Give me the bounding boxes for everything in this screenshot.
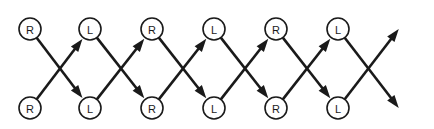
- node-bottom-3-r-label: R: [148, 103, 156, 115]
- node-bottom-5-r[interactable]: R: [265, 97, 287, 119]
- edge-top1-down-shaft: [37, 38, 76, 90]
- edge-top4-down-shaft: [221, 38, 262, 90]
- edge-top3-down-shaft: [159, 38, 200, 90]
- edge-bottom2-up-shaft: [97, 47, 138, 99]
- node-bottom-6-l-label: L: [335, 103, 341, 115]
- node-bottom-4-l-label: L: [211, 103, 217, 115]
- node-top-3-r[interactable]: R: [141, 18, 163, 40]
- edge-layer: [37, 29, 399, 108]
- node-top-1-r[interactable]: R: [19, 18, 41, 40]
- node-top-2-l-label: L: [87, 24, 93, 36]
- node-top-5-r[interactable]: R: [265, 18, 287, 40]
- edge-top6-down: [345, 38, 399, 108]
- node-top-5-r-label: R: [272, 24, 280, 36]
- edge-bottom4-up-shaft: [221, 47, 262, 99]
- edge-bottom3-up-shaft: [159, 47, 200, 99]
- trellis-diagram: RLRLRLRLRLRL: [0, 0, 434, 129]
- node-top-6-l[interactable]: L: [327, 18, 349, 40]
- node-bottom-1-r[interactable]: R: [19, 97, 41, 119]
- node-bottom-5-r-label: R: [272, 103, 280, 115]
- node-top-3-r-label: R: [148, 24, 156, 36]
- node-top-4-l[interactable]: L: [203, 18, 225, 40]
- node-top-2-l[interactable]: L: [79, 18, 101, 40]
- node-bottom-2-l[interactable]: L: [79, 97, 101, 119]
- node-bottom-6-l[interactable]: L: [327, 97, 349, 119]
- node-bottom-1-r-label: R: [26, 103, 34, 115]
- node-top-1-r-label: R: [26, 24, 34, 36]
- node-top-6-l-label: L: [335, 24, 341, 36]
- node-bottom-4-l[interactable]: L: [203, 97, 225, 119]
- edge-top2-down-shaft: [97, 38, 138, 90]
- edge-bottom5-up-shaft: [283, 47, 324, 99]
- node-bottom-2-l-label: L: [87, 103, 93, 115]
- node-bottom-3-r[interactable]: R: [141, 97, 163, 119]
- trellis-canvas: RLRLRLRLRLRL: [0, 0, 434, 129]
- edge-top5-down-shaft: [283, 38, 324, 90]
- edge-bottom6-up: [345, 29, 399, 99]
- edge-bottom1-up-shaft: [37, 48, 76, 100]
- node-top-4-l-label: L: [211, 24, 217, 36]
